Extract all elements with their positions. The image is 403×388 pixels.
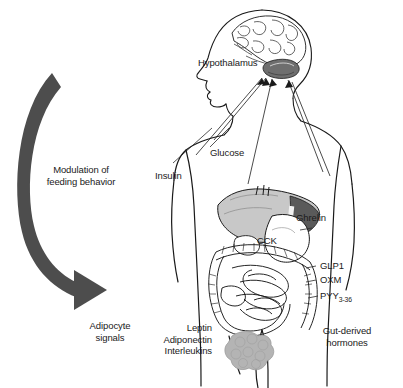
label-hypothalamus: Hypothalamus xyxy=(198,57,258,69)
label-ghrelin: Ghrelin xyxy=(296,212,326,224)
arrowheads xyxy=(257,78,293,88)
label-gut-derived-hormones: Gut-derivedhormones xyxy=(302,325,392,348)
hypothalamus-organ xyxy=(263,59,299,78)
label-adipokines: LeptinAdiponectinInterleukins xyxy=(110,322,212,357)
label-gut-line1: Gut-derived xyxy=(323,325,372,336)
label-pyy: PYY3-36 xyxy=(320,290,352,305)
neck xyxy=(224,98,301,135)
label-glucose: Glucose xyxy=(210,147,244,159)
label-cck: CCK xyxy=(257,235,277,247)
label-modulation: Modulation offeeding behavior xyxy=(26,164,136,187)
label-gut-line2: hormones xyxy=(326,337,367,348)
label-pyy-subscript: 3-36 xyxy=(339,296,352,303)
afferent-arrows xyxy=(196,78,330,184)
label-modulation-line1: Modulation of xyxy=(53,164,109,175)
figure-root: Hypothalamus Glucose Insulin Ghrelin CCK… xyxy=(0,0,403,388)
label-insulin: Insulin xyxy=(155,170,182,182)
label-pyy-text: PYY xyxy=(320,290,339,301)
label-interleukins: Interleukins xyxy=(165,345,212,356)
label-oxm: OXM xyxy=(320,274,341,286)
label-modulation-line2: feeding behavior xyxy=(47,176,116,187)
label-adiponectin: Adiponectin xyxy=(163,334,212,345)
label-glp1: GLP1 xyxy=(320,260,344,272)
adipocyte-cluster xyxy=(225,332,274,370)
modulation-arrow xyxy=(17,73,107,310)
label-leptin: Leptin xyxy=(187,322,212,333)
